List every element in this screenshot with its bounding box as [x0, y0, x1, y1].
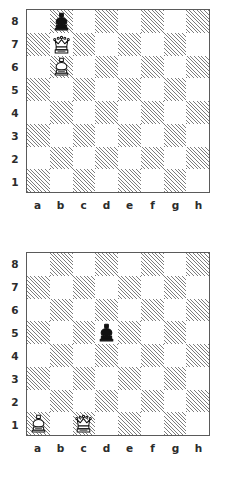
square-d2[interactable]	[95, 147, 118, 170]
square-f5[interactable]	[141, 78, 164, 101]
square-c7[interactable]	[73, 33, 96, 56]
square-g2[interactable]	[164, 147, 187, 170]
square-d7[interactable]	[95, 276, 118, 299]
square-g1[interactable]	[164, 412, 187, 435]
square-e1[interactable]	[118, 169, 141, 192]
square-b4[interactable]	[50, 101, 73, 124]
square-a3[interactable]	[27, 124, 50, 147]
square-c8[interactable]	[73, 10, 96, 33]
square-c2[interactable]	[73, 390, 96, 413]
square-h5[interactable]	[186, 321, 209, 344]
square-f3[interactable]	[141, 124, 164, 147]
square-b1[interactable]	[50, 412, 73, 435]
square-b4[interactable]	[50, 344, 73, 367]
square-d4[interactable]	[95, 344, 118, 367]
square-b2[interactable]	[50, 147, 73, 170]
square-b7[interactable]	[50, 33, 73, 56]
square-a4[interactable]	[27, 101, 50, 124]
square-c5[interactable]	[73, 78, 96, 101]
square-c4[interactable]	[73, 344, 96, 367]
square-c2[interactable]	[73, 147, 96, 170]
square-c6[interactable]	[73, 299, 96, 322]
square-f7[interactable]	[141, 33, 164, 56]
square-h7[interactable]	[186, 33, 209, 56]
square-d6[interactable]	[95, 56, 118, 79]
square-g6[interactable]	[164, 299, 187, 322]
square-b8[interactable]	[50, 253, 73, 276]
square-e5[interactable]	[118, 78, 141, 101]
square-d8[interactable]	[95, 253, 118, 276]
square-b6[interactable]	[50, 56, 73, 79]
square-e7[interactable]	[118, 276, 141, 299]
square-g6[interactable]	[164, 56, 187, 79]
square-a2[interactable]	[27, 390, 50, 413]
square-g3[interactable]	[164, 124, 187, 147]
square-b3[interactable]	[50, 124, 73, 147]
square-d8[interactable]	[95, 10, 118, 33]
square-f8[interactable]	[141, 10, 164, 33]
square-d5[interactable]	[95, 78, 118, 101]
square-f4[interactable]	[141, 344, 164, 367]
square-a6[interactable]	[27, 56, 50, 79]
square-b5[interactable]	[50, 321, 73, 344]
white-queen-icon[interactable]	[51, 34, 72, 55]
square-c4[interactable]	[73, 101, 96, 124]
square-c6[interactable]	[73, 56, 96, 79]
square-h3[interactable]	[186, 367, 209, 390]
square-f3[interactable]	[141, 367, 164, 390]
square-a2[interactable]	[27, 147, 50, 170]
square-e6[interactable]	[118, 299, 141, 322]
square-g8[interactable]	[164, 10, 187, 33]
square-b2[interactable]	[50, 390, 73, 413]
square-a7[interactable]	[27, 276, 50, 299]
board-grid-1[interactable]	[26, 9, 210, 193]
square-d1[interactable]	[95, 412, 118, 435]
square-b3[interactable]	[50, 367, 73, 390]
square-g8[interactable]	[164, 253, 187, 276]
square-e8[interactable]	[118, 10, 141, 33]
square-b1[interactable]	[50, 169, 73, 192]
square-h3[interactable]	[186, 124, 209, 147]
square-a1[interactable]	[27, 412, 50, 435]
square-f1[interactable]	[141, 169, 164, 192]
square-e4[interactable]	[118, 344, 141, 367]
square-h1[interactable]	[186, 412, 209, 435]
square-e8[interactable]	[118, 253, 141, 276]
square-h7[interactable]	[186, 276, 209, 299]
white-king-icon[interactable]	[28, 413, 49, 434]
square-f5[interactable]	[141, 321, 164, 344]
square-d6[interactable]	[95, 299, 118, 322]
square-a8[interactable]	[27, 253, 50, 276]
square-h1[interactable]	[186, 169, 209, 192]
square-g3[interactable]	[164, 367, 187, 390]
square-e7[interactable]	[118, 33, 141, 56]
square-h8[interactable]	[186, 10, 209, 33]
square-e1[interactable]	[118, 412, 141, 435]
square-c1[interactable]	[73, 169, 96, 192]
square-a1[interactable]	[27, 169, 50, 192]
square-f8[interactable]	[141, 253, 164, 276]
square-c8[interactable]	[73, 253, 96, 276]
square-e6[interactable]	[118, 56, 141, 79]
square-a8[interactable]	[27, 10, 50, 33]
square-c3[interactable]	[73, 367, 96, 390]
square-h4[interactable]	[186, 344, 209, 367]
square-d7[interactable]	[95, 33, 118, 56]
square-d3[interactable]	[95, 367, 118, 390]
square-g7[interactable]	[164, 33, 187, 56]
square-h2[interactable]	[186, 147, 209, 170]
square-a5[interactable]	[27, 321, 50, 344]
square-d4[interactable]	[95, 101, 118, 124]
square-a4[interactable]	[27, 344, 50, 367]
square-h2[interactable]	[186, 390, 209, 413]
square-c5[interactable]	[73, 321, 96, 344]
square-g5[interactable]	[164, 321, 187, 344]
square-c1[interactable]	[73, 412, 96, 435]
square-f1[interactable]	[141, 412, 164, 435]
square-g4[interactable]	[164, 101, 187, 124]
square-b6[interactable]	[50, 299, 73, 322]
square-e3[interactable]	[118, 124, 141, 147]
square-b5[interactable]	[50, 78, 73, 101]
square-f4[interactable]	[141, 101, 164, 124]
square-g2[interactable]	[164, 390, 187, 413]
